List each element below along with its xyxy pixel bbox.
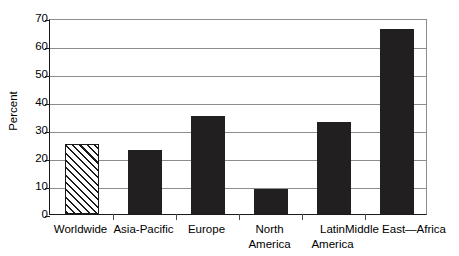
y-axis-tick-label: 50 <box>24 69 48 81</box>
y-axis-title: Percent <box>2 8 24 213</box>
bar <box>317 122 351 214</box>
y-axis-tick-label: 20 <box>24 153 48 165</box>
gridline <box>50 76 426 77</box>
y-axis-tick-labels: 010203040506070 <box>24 0 48 256</box>
gridline <box>50 104 426 105</box>
bar <box>191 116 225 214</box>
y-axis-tick-mark <box>45 188 50 189</box>
y-axis-tick-mark <box>45 216 50 217</box>
y-axis-tick-label: 0 <box>24 209 48 221</box>
y-axis-tick-mark <box>45 132 50 133</box>
gridline <box>50 160 426 161</box>
gridline <box>50 48 426 49</box>
y-axis-tick-mark <box>45 20 50 21</box>
y-axis-tick-mark <box>45 76 50 77</box>
gridline <box>50 188 426 189</box>
bar <box>65 144 99 214</box>
x-axis-tick-mark <box>113 214 114 220</box>
gridline <box>50 132 426 133</box>
y-axis-tick-label: 10 <box>24 181 48 193</box>
y-axis-tick-label: 30 <box>24 125 48 137</box>
y-axis-tick-label: 60 <box>24 41 48 53</box>
x-axis-category-label: Middle East—Africa <box>336 222 456 237</box>
x-axis-tick-mark <box>302 214 303 220</box>
y-axis-tick-label: 40 <box>24 97 48 109</box>
x-axis-tick-mark <box>239 214 240 220</box>
y-axis-tick-label: 70 <box>24 13 48 25</box>
x-axis-tick-mark <box>176 214 177 220</box>
bar <box>380 29 414 214</box>
plot-area <box>49 19 427 215</box>
x-axis-category-labels: WorldwideAsia-PacificEuropeNorthAmericaL… <box>49 222 427 256</box>
y-axis-title-label: Percent <box>7 91 19 131</box>
bar <box>254 189 288 214</box>
x-axis-category-label-line: Middle East—Africa <box>336 222 456 237</box>
y-axis-tick-mark <box>45 104 50 105</box>
y-axis-tick-mark <box>45 160 50 161</box>
bar-chart-figure: Percent 010203040506070 WorldwideAsia-Pa… <box>0 0 459 256</box>
x-axis-category-label-line: America <box>273 237 393 252</box>
bar <box>128 150 162 214</box>
x-axis-tick-mark <box>365 214 366 220</box>
y-axis-tick-mark <box>45 48 50 49</box>
